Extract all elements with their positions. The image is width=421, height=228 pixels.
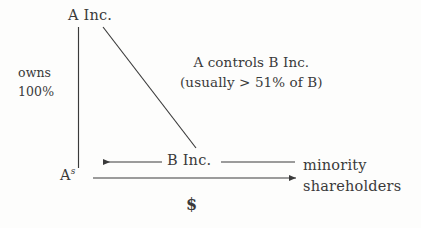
ownership-label-line-2: 100% <box>18 84 54 99</box>
control-annotation-line-2: (usually > 51% of B) <box>180 74 323 90</box>
minority-line-1: minority <box>303 157 367 173</box>
control-annotation-line-1: A controls B Inc. <box>193 54 309 70</box>
node-subsidiary-holder-base: A <box>60 167 71 183</box>
node-parent-company: A Inc. <box>68 8 112 23</box>
ownership-label-line-1: owns <box>18 65 51 80</box>
node-subsidiary-holder: As <box>60 168 75 183</box>
diagram-canvas: A Inc. B Inc. As minorityshareholders ow… <box>0 0 421 228</box>
payment-flow-label: $ <box>186 197 197 213</box>
minority-line-2: shareholders <box>303 178 401 194</box>
node-subsidiary-holder-superscript: s <box>71 166 76 176</box>
node-minority-shareholders: minorityshareholders <box>303 155 401 197</box>
node-controlled-company: B Inc. <box>167 153 211 168</box>
ownership-edge-label: owns100% <box>18 64 54 102</box>
control-annotation: A controls B Inc.(usually > 51% of B) <box>180 52 323 93</box>
